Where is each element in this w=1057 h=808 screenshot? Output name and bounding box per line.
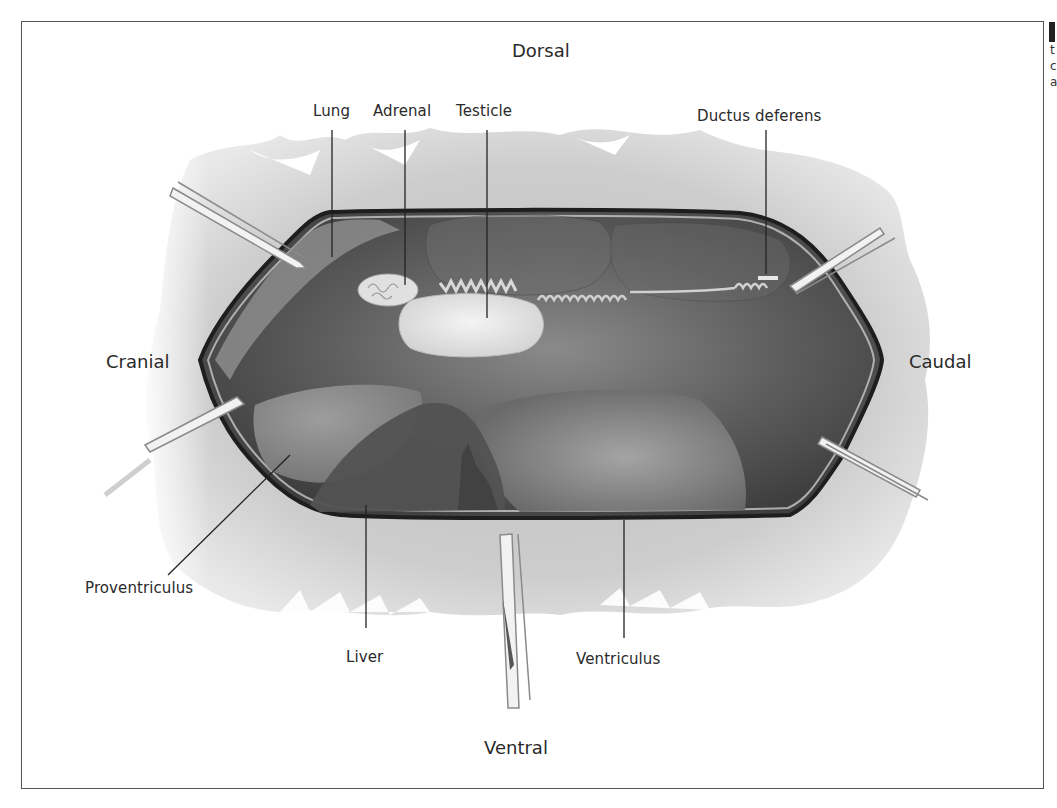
label-ventral: Ventral (484, 737, 548, 758)
label-proventriculus: Proventriculus (85, 579, 193, 597)
label-cranial: Cranial (106, 351, 169, 372)
adjacent-text-line-2: c (1050, 60, 1057, 72)
label-testicle: Testicle (456, 102, 512, 120)
ventriculus-shape (476, 390, 746, 512)
label-dorsal: Dorsal (512, 40, 570, 61)
label-lung: Lung (313, 102, 350, 120)
adrenal-gland (358, 274, 418, 306)
testicle-shape (399, 294, 543, 357)
label-liver: Liver (346, 648, 383, 666)
kidney-outline (426, 215, 613, 295)
label-caudal: Caudal (909, 351, 971, 372)
label-adrenal: Adrenal (373, 102, 431, 120)
label-ductus-deferens: Ductus deferens (697, 107, 821, 125)
adjacent-heading-bar (1049, 22, 1055, 42)
ductus-highlight (758, 276, 778, 280)
adjacent-text-line-3: a (1050, 76, 1057, 88)
label-ventriculus: Ventriculus (576, 650, 660, 668)
adjacent-text-line-1: t (1050, 44, 1055, 56)
